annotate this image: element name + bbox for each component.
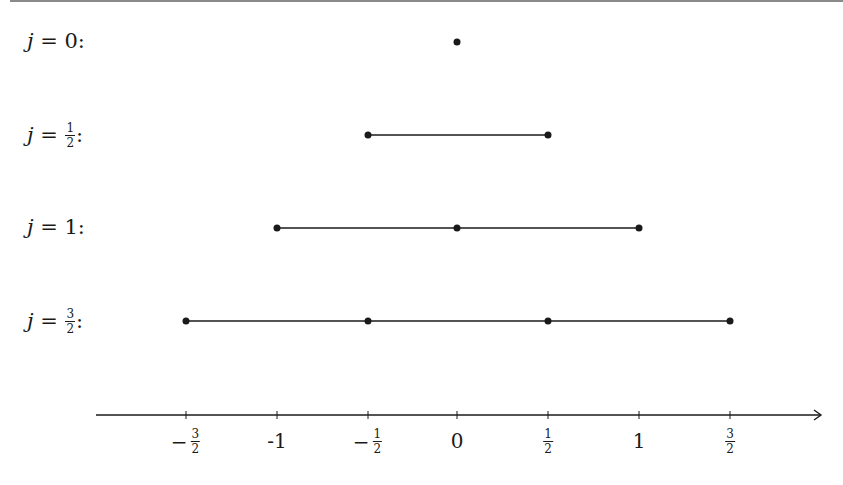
fraction: 3 2 [191, 428, 201, 455]
state-dot [365, 132, 372, 139]
tick-label-one: 1 [633, 429, 646, 453]
state-dot [545, 318, 552, 325]
tick-label-minus-three-halves: − 3 2 [171, 428, 201, 455]
tick-label-minus-half: − 1 2 [353, 428, 383, 455]
multiplet-j-0 [454, 39, 461, 46]
fraction: 1 2 [543, 428, 553, 455]
numerator: 3 [725, 428, 735, 442]
tick-label-three-halves: 3 2 [724, 428, 736, 455]
state-dot [727, 318, 734, 325]
numerator: 1 [373, 428, 383, 442]
multiplet-diagram [0, 0, 843, 485]
minus-sign: − [171, 430, 188, 454]
state-dot [183, 318, 190, 325]
state-dot [636, 225, 643, 232]
tick-label-half: 1 2 [542, 428, 554, 455]
tick-label-minus-one: -1 [267, 429, 286, 453]
multiplet-j-1 [274, 225, 643, 232]
minus-sign: − [353, 430, 370, 454]
state-dot [454, 225, 461, 232]
state-dot [365, 318, 372, 325]
denominator: 2 [544, 442, 552, 455]
numerator: 3 [191, 428, 201, 442]
denominator: 2 [192, 442, 200, 455]
numerator: 1 [543, 428, 553, 442]
fraction: 1 2 [373, 428, 383, 455]
state-dot [454, 39, 461, 46]
tick-value: 1 [633, 429, 646, 453]
tick-value: 0 [451, 429, 464, 453]
denominator: 2 [374, 442, 382, 455]
state-dot [545, 132, 552, 139]
tick-value: -1 [267, 429, 286, 453]
multiplet-j-half [365, 132, 552, 139]
denominator: 2 [726, 442, 734, 455]
state-dot [274, 225, 281, 232]
tick-label-zero: 0 [451, 429, 464, 453]
multiplet-j-three-halves [183, 318, 734, 325]
fraction: 3 2 [725, 428, 735, 455]
m-axis [96, 410, 821, 420]
